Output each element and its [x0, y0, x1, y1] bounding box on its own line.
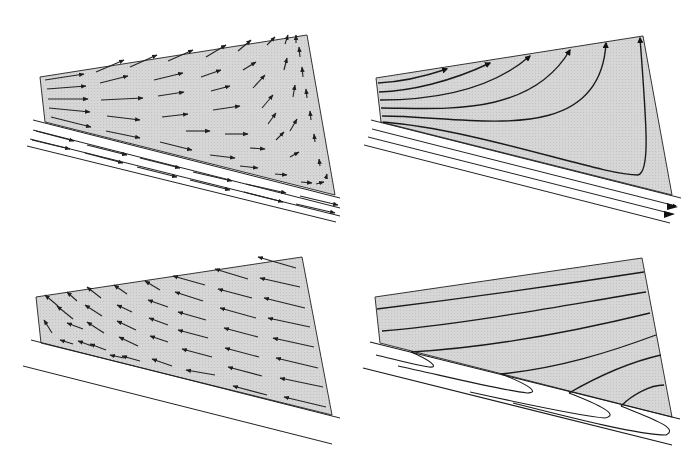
wedge-d — [375, 258, 672, 417]
panel-c — [364, 36, 681, 223]
conveyor-arrowheads-c — [664, 203, 678, 218]
wedge-a — [40, 35, 335, 195]
panel-d — [363, 258, 680, 445]
wedge-b — [36, 257, 332, 415]
wedge-c — [376, 36, 672, 195]
figure-canvas — [0, 0, 698, 464]
panel-a — [27, 35, 340, 222]
panel-b — [23, 257, 340, 444]
